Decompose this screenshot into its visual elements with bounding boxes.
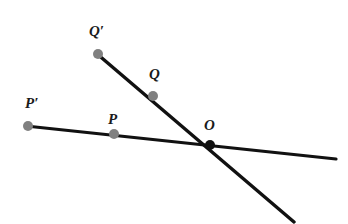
figure-canvas [0, 0, 348, 224]
label-P: P [108, 112, 117, 127]
figure-background [0, 0, 348, 224]
label-O: O [204, 118, 215, 133]
label-Q: Q [149, 67, 160, 82]
point-Q-prime [93, 49, 103, 59]
label-P-prime: P′ [25, 96, 38, 111]
geometry-figure: Q′ Q P′ P O [0, 0, 348, 224]
point-P-prime [23, 121, 33, 131]
point-P [109, 129, 119, 139]
point-O-intersection [205, 140, 215, 150]
point-Q [148, 91, 158, 101]
label-Q-prime: Q′ [89, 24, 104, 39]
